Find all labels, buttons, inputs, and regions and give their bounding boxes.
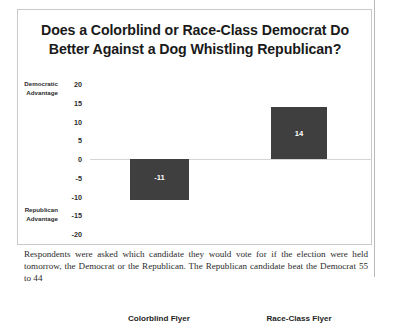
x-label-race-class-flyer: Race-Class Flyer: [266, 314, 331, 323]
y-tick-0: 0: [60, 155, 82, 164]
page-margin-rule: [374, 0, 375, 277]
bar-race-class-flyer[interactable]: 14: [271, 107, 327, 160]
y-tick-10: 10: [60, 117, 82, 126]
y-tick-neg10: -10: [60, 192, 82, 201]
bar-value-race-class-flyer: 14: [271, 129, 327, 138]
y-tick-neg15: -15: [60, 211, 82, 220]
y-tick-15: 15: [60, 98, 82, 107]
y-tick-5: 5: [60, 136, 82, 145]
plot-area: -11 14 Colorblind Flyer Race-Class Flyer: [90, 84, 372, 234]
republican-advantage-line-1: Republican: [25, 206, 58, 213]
x-label-colorblind-flyer: Colorblind Flyer: [128, 314, 190, 323]
chart-figure: Does a Colorblind or Race-Class Democrat…: [17, 9, 372, 245]
y-tick-neg5: -5: [60, 173, 82, 182]
y-tick-20: 20: [60, 80, 82, 89]
y-tick-neg20: -20: [60, 230, 82, 239]
chart-title: Does a Colorblind or Race-Class Democrat…: [32, 21, 358, 58]
democratic-advantage-line-2: Advantage: [26, 89, 58, 96]
democratic-advantage-line-1: Democratic: [24, 80, 58, 87]
chart-title-line-1: Does a Colorblind or Race-Class Democrat…: [41, 22, 349, 38]
figure-footnote: Respondents were asked which candidate t…: [24, 248, 368, 285]
republican-advantage-line-2: Advantage: [26, 215, 58, 222]
bar-value-colorblind-flyer: -11: [130, 173, 189, 182]
republican-advantage-caption: Republican Advantage: [14, 206, 58, 223]
y-axis-tick-labels: 20 15 10 5 0 -5 -10 -15 -20: [60, 84, 82, 234]
bar-colorblind-flyer[interactable]: -11: [130, 159, 189, 200]
chart-title-line-2: Better Against a Dog Whistling Republica…: [49, 41, 341, 57]
democratic-advantage-caption: Democratic Advantage: [14, 80, 58, 97]
